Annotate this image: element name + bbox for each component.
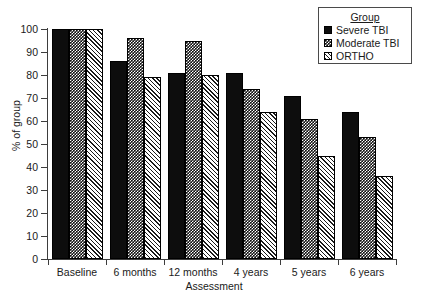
bar-6-months-severe-tbi [110, 61, 127, 259]
y-axis-tick-label: 0 [0, 254, 38, 264]
x-axis-tick [106, 260, 107, 265]
y-axis-tick [41, 29, 47, 30]
bar-6-months-moderate-tbi [127, 38, 144, 259]
bar-12-months-moderate-tbi [185, 41, 202, 260]
x-axis-title: Assessment [0, 281, 428, 292]
y-axis-tick [41, 167, 47, 168]
bar-6-years-severe-tbi [342, 112, 359, 259]
y-axis-tick [41, 236, 47, 237]
y-axis-tick [41, 190, 47, 191]
bar-baseline-moderate-tbi [69, 29, 86, 259]
bar-4-years-moderate-tbi [243, 89, 260, 259]
y-axis-tick-label: 30 [0, 185, 38, 195]
bar-baseline-severe-tbi [52, 29, 69, 259]
legend-swatch-ortho [324, 52, 332, 60]
legend-item-moderate-tbi: Moderate TBI [319, 37, 411, 49]
legend-item-severe-tbi: Severe TBI [319, 24, 411, 36]
legend-swatch-severe-tbi [324, 26, 332, 34]
y-axis-tick [41, 52, 47, 53]
bar-chart: 0102030405060708090100 % of group Baseli… [0, 0, 428, 293]
x-axis-tick [338, 260, 339, 265]
bar-6-years-ortho [376, 176, 393, 259]
bar-baseline-ortho [86, 29, 103, 259]
bar-4-years-ortho [260, 112, 277, 259]
legend-swatch-moderate-tbi [324, 39, 332, 47]
x-axis-tick [396, 260, 397, 265]
y-axis-tick [41, 121, 47, 122]
x-axis-tick [280, 260, 281, 265]
y-axis-tick [41, 259, 47, 260]
bar-12-months-severe-tbi [168, 73, 185, 259]
legend-item-ortho: ORTHO [319, 50, 411, 62]
y-axis-tick [41, 98, 47, 99]
x-axis-tick [164, 260, 165, 265]
y-axis-tick [41, 75, 47, 76]
legend-label-ortho: ORTHO [336, 50, 374, 62]
x-axis-tick-label: 6 years [327, 267, 407, 278]
legend-label-moderate-tbi: Moderate TBI [336, 37, 399, 49]
bar-6-years-moderate-tbi [359, 137, 376, 259]
y-axis-tick [41, 144, 47, 145]
y-axis-tick [41, 213, 47, 214]
x-axis-tick [48, 260, 49, 265]
y-axis-tick-label: 20 [0, 208, 38, 218]
bar-5-years-ortho [318, 156, 335, 260]
x-axis-tick [222, 260, 223, 265]
legend-title: Group [319, 11, 411, 23]
bar-12-months-ortho [202, 75, 219, 259]
bar-5-years-moderate-tbi [301, 119, 318, 259]
bar-4-years-severe-tbi [226, 73, 243, 259]
y-axis-tick-label: 100 [0, 24, 38, 34]
legend: Group Severe TBI Moderate TBI ORTHO [318, 7, 412, 64]
y-axis-tick-label: 10 [0, 231, 38, 241]
bar-6-months-ortho [144, 77, 161, 259]
legend-label-severe-tbi: Severe TBI [336, 24, 388, 36]
bar-5-years-severe-tbi [284, 96, 301, 259]
y-axis-title: % of group [11, 66, 22, 186]
y-axis-tick-label: 90 [0, 47, 38, 57]
